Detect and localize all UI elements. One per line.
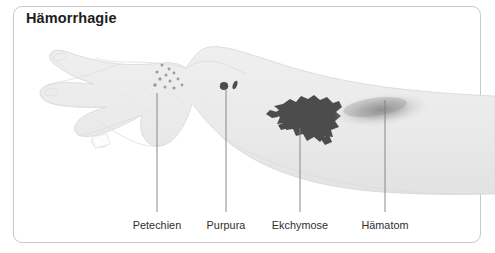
- hemorrhage-figure: Hämorrhagie: [0, 0, 495, 253]
- label-haematom: Hämatom: [361, 219, 408, 231]
- skin-silhouette: [40, 47, 495, 195]
- hand-illustration: [0, 0, 495, 253]
- label-petechien: Petechien: [133, 219, 181, 231]
- label-purpura: Purpura: [207, 219, 246, 231]
- label-ekchymose: Ekchymose: [272, 219, 328, 231]
